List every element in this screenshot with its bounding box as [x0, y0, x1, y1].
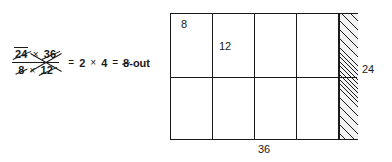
height-label: 24 [362, 63, 374, 75]
cancellation-expression: 24 × 36 8 × 12 = 2 × 4 = 8-out [12, 48, 150, 77]
fraction-bar [12, 62, 59, 63]
equation-result: = 2 × 4 = 8-out [68, 57, 150, 69]
fraction-denominator: 8 × 12 [15, 64, 56, 77]
area-model-rectangle: 8 12 [170, 13, 358, 140]
equals-sign-second: = [112, 57, 118, 68]
denominator-right-term: 12 [40, 65, 55, 76]
numerator-left-term: 24 [14, 49, 29, 60]
final-value: 8 [123, 57, 129, 69]
result-operator: × [90, 57, 96, 68]
numerator-right-term: 36 [43, 49, 58, 60]
final-annotation: -out [129, 57, 150, 69]
final-value-group: 8-out [123, 57, 150, 69]
result-left-factor: 2 [79, 57, 85, 69]
equals-sign-first: = [68, 57, 74, 68]
width-label: 36 [170, 143, 358, 155]
horizontal-divider [171, 77, 357, 78]
result-right-factor: 4 [101, 57, 107, 69]
denominator-left-term: 8 [17, 65, 25, 76]
cell-label-second: 12 [219, 40, 231, 52]
math-figure: 24 × 36 8 × 12 = 2 × 4 = 8-out 8 [0, 0, 392, 162]
numerator-operator: × [32, 50, 40, 60]
denominator-operator: × [28, 66, 36, 76]
cell-label-top-left: 8 [181, 18, 187, 30]
fraction: 24 × 36 8 × 12 [12, 48, 59, 77]
fraction-numerator: 24 × 36 [12, 48, 59, 61]
